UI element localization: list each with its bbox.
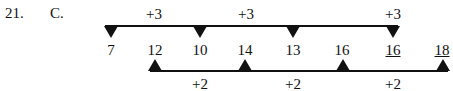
- up-triangle-icon: [238, 59, 252, 71]
- sequence-value: 14: [238, 43, 253, 58]
- down-triangle-icon: [286, 26, 300, 38]
- sequence-value: 7: [107, 43, 115, 58]
- bottom-step-label: +2: [192, 77, 208, 91]
- down-triangle-icon: [104, 26, 118, 38]
- sequence-value-underlined: 18: [435, 43, 450, 58]
- sequence-value: 12: [148, 43, 163, 58]
- top-step-label: +3: [238, 7, 254, 22]
- up-triangle-icon: [436, 59, 450, 71]
- down-triangle-icon: [386, 26, 400, 38]
- bottom-bracket-line: [150, 70, 448, 72]
- answer-letter: C.: [50, 6, 64, 21]
- top-bracket-line: [105, 25, 398, 27]
- question-number: 21.: [5, 6, 24, 21]
- bottom-step-label: +2: [385, 77, 401, 91]
- top-step-label: +3: [146, 7, 162, 22]
- bottom-step-label: +2: [285, 77, 301, 91]
- sequence-value-underlined: 16: [386, 43, 401, 58]
- sequence-value: 16: [335, 43, 350, 58]
- sequence-value: 13: [286, 43, 301, 58]
- up-triangle-icon: [336, 59, 350, 71]
- sequence-value: 10: [193, 43, 208, 58]
- up-triangle-icon: [148, 59, 162, 71]
- top-step-label: +3: [385, 7, 401, 22]
- down-triangle-icon: [193, 26, 207, 38]
